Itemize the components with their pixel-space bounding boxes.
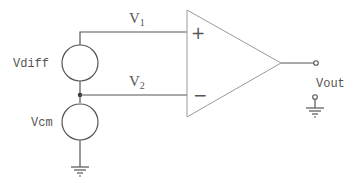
v1-wire	[80, 32, 187, 45]
vout-label: Vout	[316, 77, 345, 91]
inverting-input-sign: −	[193, 85, 207, 105]
vcm-label: Vcm	[31, 116, 53, 130]
v1-label: V1	[129, 10, 145, 28]
circuit-diagram: V1 V2 Vdiff Vcm Vout + −	[0, 0, 354, 183]
output-ground-icon	[306, 108, 324, 117]
vdiff-source	[62, 45, 98, 81]
output-ground-terminal	[313, 95, 318, 100]
ground-icon	[71, 167, 89, 176]
vcm-source	[62, 104, 98, 140]
vdiff-label: Vdiff	[13, 57, 49, 71]
v2-label: V2	[129, 73, 145, 91]
noninverting-input-sign: +	[191, 23, 205, 43]
output-terminal	[314, 61, 319, 66]
